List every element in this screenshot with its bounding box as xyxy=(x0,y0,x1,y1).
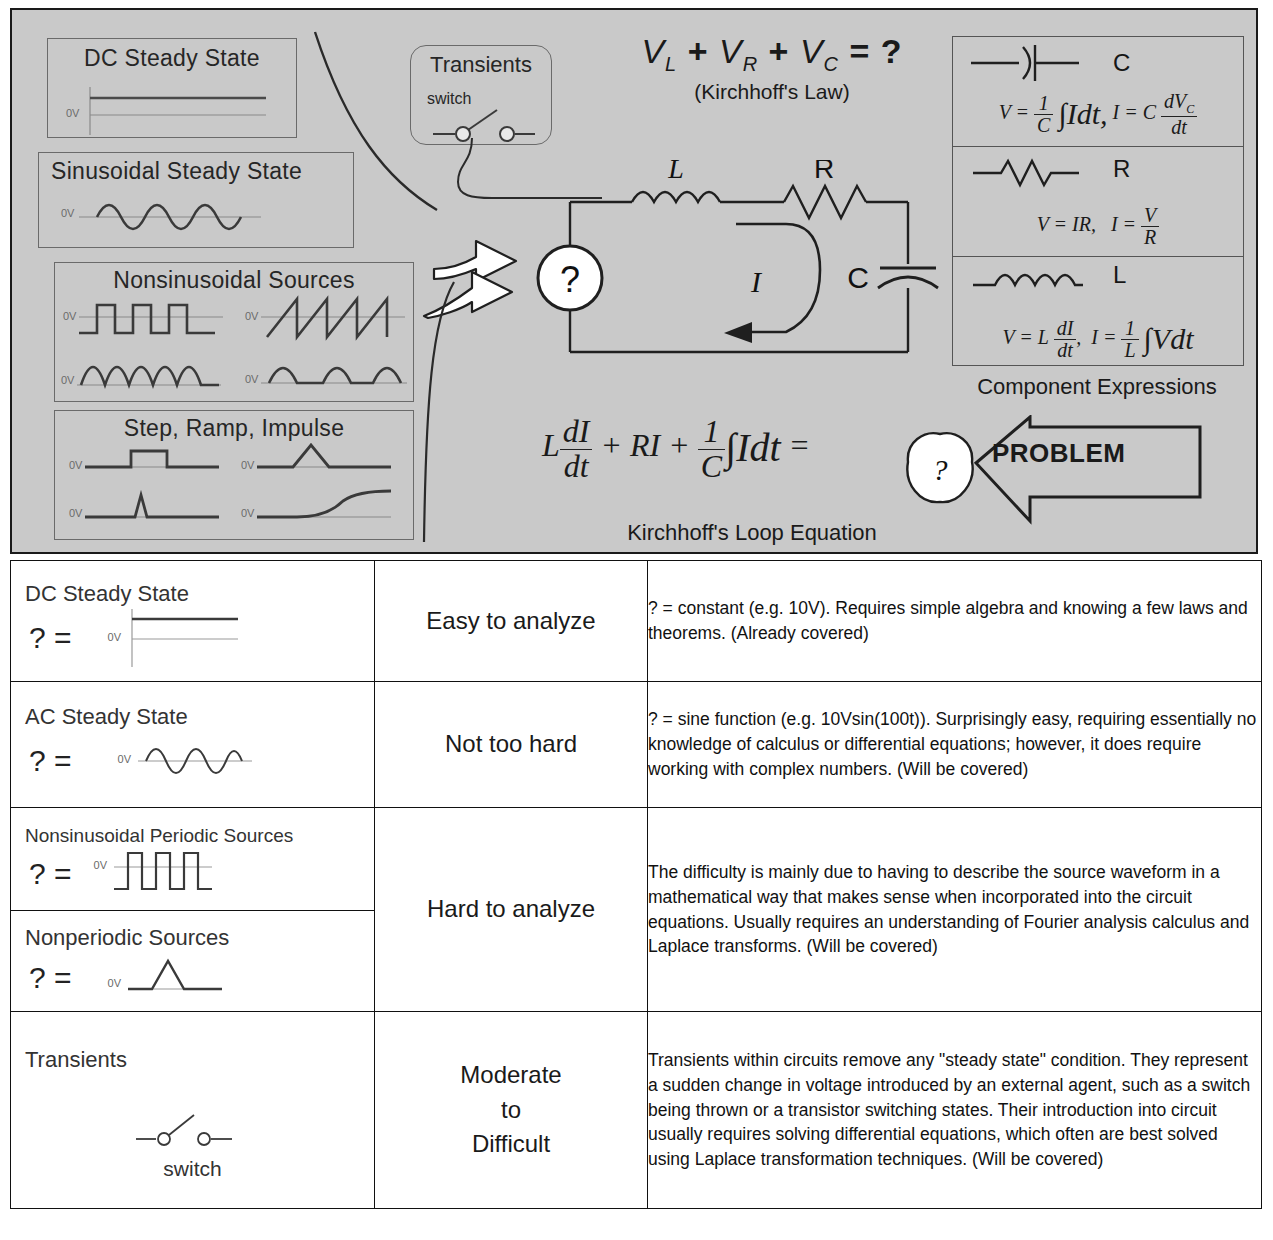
switch-caption: switch xyxy=(11,1157,374,1181)
table-row: AC Steady State ? = 0V Not too hard ? xyxy=(11,682,1262,808)
row-label-cell-nonsin: Nonsinusoidal Periodic Sources ? = 0V xyxy=(11,808,375,911)
row-label-transients: Transients xyxy=(11,1040,374,1073)
svg-text:R: R xyxy=(814,160,834,184)
cap-frac2-den: dt xyxy=(1161,116,1197,138)
resistor-letter: R xyxy=(1113,155,1130,183)
resistor-formula: V = IR, I = VR xyxy=(953,205,1243,248)
waveform-sine-table: 0V xyxy=(120,732,280,790)
zero-volt-label: 0V xyxy=(245,373,258,385)
waveform-step: 0V xyxy=(69,445,229,485)
loop-frac1-den: dt xyxy=(560,449,593,484)
cap-integral: ∫Idt, xyxy=(1058,97,1107,130)
res-formula-left: V = IR, xyxy=(1037,213,1096,235)
table-row: DC Steady State ? = 0V Easy to analyze xyxy=(11,561,1262,682)
cap-frac2-num-sub: C xyxy=(1186,102,1194,116)
vc-subscript: C xyxy=(824,53,839,75)
description-text-nonsin: The difficulty is mainly due to having t… xyxy=(648,862,1249,957)
capacitor-symbol-icon xyxy=(967,43,1107,83)
loop-equals: = xyxy=(789,427,811,463)
q-equals-ac: ? = xyxy=(11,744,72,778)
ind-frac-num: dI xyxy=(1054,318,1077,339)
kirchhoff-law-equation: VL + VR + VC = ? (Kirchhoff's Law) xyxy=(592,32,952,104)
loop-frac1-num: dI xyxy=(560,415,593,449)
zero-volt-label: 0V xyxy=(66,107,79,119)
source-box-dc: DC Steady State 0V xyxy=(47,38,297,138)
description-cell-nonsin: The difficulty is mainly due to having t… xyxy=(648,808,1262,1012)
waveform-sine: 0V xyxy=(61,195,291,243)
row-label-nonsin: Nonsinusoidal Periodic Sources xyxy=(11,818,374,847)
loop-integral: ∫Idt xyxy=(725,425,780,470)
waveform-triangle-pulse-table: 0V xyxy=(110,951,250,1005)
component-resistor: R V = IR, I = VR xyxy=(953,147,1243,257)
analysis-comparison-table: DC Steady State ? = 0V Easy to analyze xyxy=(10,560,1262,1209)
zero-volt-label: 0V xyxy=(241,459,254,471)
row-waveform-dc: ? = 0V xyxy=(11,607,374,669)
zero-volt-label: 0V xyxy=(69,459,82,471)
description-text-dc: ? = constant (e.g. 10V). Requires simple… xyxy=(648,598,1248,643)
row-label-dc: DC Steady State xyxy=(11,574,374,607)
svg-text:C: C xyxy=(847,261,869,294)
difficulty-cell-nonsin: Hard to analyze xyxy=(375,808,648,1012)
description-cell-dc: ? = constant (e.g. 10V). Requires simple… xyxy=(648,561,1262,682)
loop-frac2-den: C xyxy=(698,449,725,484)
kirchhoff-loop-equation: LdIdt + RI + 1C∫Idt = xyxy=(542,415,962,483)
zero-volt-label: 0V xyxy=(245,310,258,322)
inductor-formula: V = L dIdt, I = 1L ∫Vdt xyxy=(953,318,1243,361)
vr-subscript: R xyxy=(743,53,758,75)
description-cell-transients: Transients within circuits remove any "s… xyxy=(648,1012,1262,1209)
loop-frac2-num: 1 xyxy=(698,415,725,449)
res-frac-num: V xyxy=(1141,205,1159,226)
difficulty-cell-dc: Easy to analyze xyxy=(375,561,648,682)
svg-text:?: ? xyxy=(933,453,948,486)
capacitor-letter: C xyxy=(1113,49,1130,77)
waveform-half-rectified: 0V xyxy=(245,349,415,393)
row-label-nonperiodic: Nonperiodic Sources xyxy=(11,918,374,951)
switch-symbol-icon xyxy=(118,1109,268,1153)
waveform-square: 0V xyxy=(63,299,235,345)
table-row: Transients switch Moderate to Difficult xyxy=(11,1012,1262,1209)
waveform-dc-table: 0V xyxy=(110,607,270,669)
cap-frac-den: C xyxy=(1034,114,1053,136)
zero-volt-label: 0V xyxy=(61,374,74,386)
inductor-symbol-icon xyxy=(967,263,1107,295)
zero-volt-label: 0V xyxy=(63,310,76,322)
rlc-circuit-diagram: ? L R C I xyxy=(512,160,962,390)
cap-fraction-2: dVCdt xyxy=(1161,91,1197,138)
row-waveform-nonsin: ? = 0V xyxy=(11,847,374,901)
zero-volt-label: 0V xyxy=(241,507,254,519)
source-title-dc: DC Steady State xyxy=(48,45,296,72)
row-label-cell-ac: AC Steady State ? = 0V xyxy=(11,682,375,808)
loop-plus-2: + xyxy=(668,427,690,463)
description-text-transients: Transients within circuits remove any "s… xyxy=(648,1050,1250,1169)
zero-volt-label: 0V xyxy=(118,753,131,765)
equals-sign: = xyxy=(849,32,870,70)
component-expressions-caption: Component Expressions xyxy=(942,374,1252,400)
difficulty-label-nonsin: Hard to analyze xyxy=(427,895,595,922)
vc-term: V xyxy=(800,32,824,70)
loop-term1-coeff: L xyxy=(542,427,560,463)
ind-formula-left: V = L xyxy=(1003,326,1049,348)
res-fraction: VR xyxy=(1141,205,1159,248)
component-capacitor: C V = 1C ∫Idt, I = C dVCdt xyxy=(953,37,1243,147)
description-text-ac: ? = sine function (e.g. 10Vsin(100t)). S… xyxy=(648,709,1256,779)
ind-frac2-den: L xyxy=(1121,339,1138,361)
q-equals-nonperiodic: ? = xyxy=(11,961,72,995)
difficulty-cell-transients: Moderate to Difficult xyxy=(375,1012,648,1209)
kirchhoff-equation-line: VL + VR + VC = ? xyxy=(592,32,952,76)
description-cell-ac: ? = sine function (e.g. 10Vsin(100t)). S… xyxy=(648,682,1262,808)
row-label-cell-nonperiodic: Nonperiodic Sources ? = 0V xyxy=(11,911,375,1012)
overview-panel: DC Steady State 0V Sinusoidal Steady Sta… xyxy=(10,8,1258,554)
difficulty-label-dc: Easy to analyze xyxy=(426,607,595,634)
cap-formula-left: V = xyxy=(999,101,1029,123)
component-expressions-box: C V = 1C ∫Idt, I = C dVCdt R V = IR, I =… xyxy=(952,36,1244,366)
difficulty-cell-ac: Not too hard xyxy=(375,682,648,808)
flow-curve-line-lower xyxy=(412,280,472,545)
source-title-step-ramp-impulse: Step, Ramp, Impulse xyxy=(55,415,413,442)
ind-integral: ∫Vdt xyxy=(1144,322,1194,355)
waveform-square-table: 0V xyxy=(96,847,236,901)
cap-formula-right: I = C xyxy=(1113,101,1157,123)
cap-frac2-num: dVC xyxy=(1161,91,1197,116)
loop-fraction-2: 1C xyxy=(698,415,725,483)
q-equals-dc: ? = xyxy=(11,621,72,655)
waveform-ramp: 0V xyxy=(241,441,401,483)
